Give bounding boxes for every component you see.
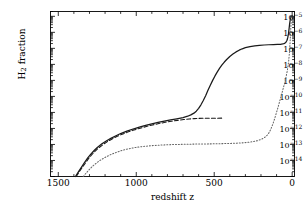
series-line-0 [75,16,292,177]
data-series-group [75,16,292,177]
figure-h2-fraction: H2 fraction redshift z 10−5 10−6 10−7 10… [0,0,304,208]
plot-canvas [0,0,304,208]
axis-ticks [51,12,295,177]
plot-frame [51,12,295,177]
series-line-2 [83,16,292,176]
